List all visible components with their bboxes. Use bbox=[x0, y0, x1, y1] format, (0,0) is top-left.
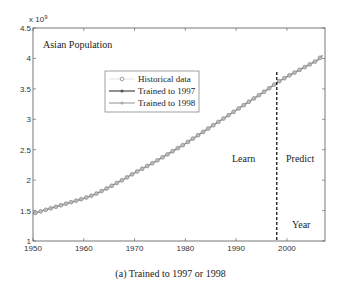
historical-data-point bbox=[135, 170, 139, 174]
x-tick-label: 2000 bbox=[278, 244, 296, 253]
historical-data-point bbox=[115, 181, 119, 185]
historical-data-point bbox=[105, 187, 109, 191]
y-tick-label: 3 bbox=[27, 115, 32, 124]
historical-data-point bbox=[237, 107, 241, 111]
svg-text:Trained to 1997: Trained to 1997 bbox=[138, 86, 196, 96]
y-exponent-label: x 109 bbox=[29, 14, 48, 24]
historical-data-point bbox=[64, 202, 68, 206]
historical-data-point bbox=[272, 83, 276, 87]
historical-data-point bbox=[196, 133, 200, 137]
historical-data-point bbox=[74, 199, 78, 203]
historical-data-point bbox=[39, 209, 43, 213]
learn-annotation: Learn bbox=[232, 153, 255, 164]
historical-data-point bbox=[171, 149, 175, 153]
y-tick-label: 1 bbox=[27, 237, 32, 246]
historical-data-point bbox=[232, 110, 236, 114]
historical-data-point bbox=[191, 137, 195, 141]
svg-text:Historical data: Historical data bbox=[138, 74, 191, 84]
historical-data-point bbox=[257, 93, 261, 97]
x-tick-label: 1960 bbox=[75, 244, 93, 253]
historical-data-point bbox=[79, 197, 83, 201]
historical-data-point bbox=[161, 155, 165, 159]
historical-data-point bbox=[298, 68, 302, 72]
historical-data-point bbox=[247, 100, 251, 104]
historical-data-point bbox=[277, 79, 281, 83]
historical-data-point bbox=[216, 120, 220, 124]
x-axis-label: Year bbox=[292, 219, 311, 230]
historical-data-point bbox=[201, 130, 205, 134]
historical-data-point bbox=[125, 176, 129, 180]
historical-data-point bbox=[206, 127, 210, 131]
historical-data-point bbox=[140, 167, 144, 171]
axes-frame bbox=[33, 28, 325, 241]
historical-data-point bbox=[282, 76, 286, 80]
historical-data-point bbox=[262, 90, 266, 94]
historical-data-point bbox=[90, 194, 94, 198]
svg-text:Trained to 1998: Trained to 1998 bbox=[138, 98, 196, 108]
figure-caption: (a) Trained to 1997 or 1998 bbox=[0, 268, 341, 279]
dot-marker-icon bbox=[121, 102, 124, 105]
historical-data-point bbox=[308, 62, 312, 66]
y-tick-label: 1.5 bbox=[20, 207, 32, 216]
historical-data-point bbox=[49, 206, 53, 210]
historical-data-point bbox=[100, 189, 104, 193]
historical-data-point bbox=[242, 103, 246, 107]
historical-data-point bbox=[120, 178, 124, 182]
historical-data-point bbox=[130, 172, 134, 176]
y-tick-label: 4.5 bbox=[20, 24, 32, 33]
historical-data-point bbox=[222, 117, 226, 121]
historical-data-point bbox=[54, 205, 58, 209]
chart-title: Asian Population bbox=[43, 39, 112, 50]
historical-data-point bbox=[34, 211, 38, 215]
historical-data-point bbox=[252, 97, 256, 101]
y-tick-label: 4 bbox=[27, 54, 32, 63]
historical-data-point bbox=[181, 143, 185, 147]
historical-data-point bbox=[166, 152, 170, 156]
historical-data-point bbox=[110, 184, 114, 188]
historical-data-point bbox=[95, 192, 99, 196]
historical-data-point bbox=[145, 164, 149, 168]
historical-data-point bbox=[227, 113, 231, 117]
legend: Historical data Trained to 1997 Trained … bbox=[105, 71, 199, 112]
historical-data-point bbox=[313, 60, 317, 64]
x-tick-label: 1990 bbox=[227, 244, 245, 253]
historical-data-point bbox=[44, 208, 48, 212]
historical-data-point bbox=[267, 86, 271, 90]
historical-data-point bbox=[288, 73, 292, 77]
predict-annotation: Predict bbox=[286, 153, 315, 164]
historical-data-point bbox=[156, 158, 160, 162]
dot-marker-icon bbox=[121, 90, 124, 93]
historical-data-point bbox=[293, 71, 297, 75]
historical-data-point bbox=[150, 161, 154, 165]
historical-data-point bbox=[186, 140, 190, 144]
y-tick-label: 3.5 bbox=[20, 85, 32, 94]
population-chart: 19501960197019801990200011.522.533.544.5… bbox=[0, 0, 341, 294]
axes: 19501960197019801990200011.522.533.544.5 bbox=[20, 24, 325, 253]
y-tick-label: 2 bbox=[27, 176, 32, 185]
y-tick-label: 2.5 bbox=[20, 146, 32, 155]
historical-data-point bbox=[303, 65, 307, 69]
historical-data-point bbox=[176, 146, 180, 150]
x-tick-label: 1970 bbox=[126, 244, 144, 253]
x-tick-label: 1980 bbox=[176, 244, 194, 253]
historical-data-point bbox=[318, 56, 322, 60]
historical-data-point bbox=[84, 196, 88, 200]
historical-data-point bbox=[69, 200, 73, 204]
historical-data-point bbox=[59, 203, 63, 207]
historical-data-point bbox=[211, 123, 215, 127]
circle-marker-icon bbox=[120, 77, 124, 81]
